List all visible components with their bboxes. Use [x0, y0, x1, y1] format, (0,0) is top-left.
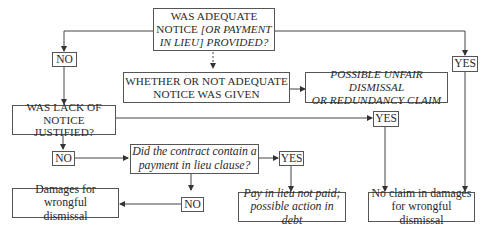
node-text: IN LIEU] PROVIDED? [160, 36, 269, 49]
node-text: payment in lieu clause? [139, 159, 251, 173]
label-yes-1: YES [452, 56, 478, 72]
label-no-2: NO [52, 151, 75, 166]
node-text: No claim in damages [372, 187, 472, 201]
node-pay-in-lieu-not-paid: Pay in lieu not paid; possible action in… [238, 192, 346, 222]
node-text: NOTICE JUSTIFIED? [13, 114, 115, 140]
label-yes-3: YES [279, 151, 304, 166]
node-unfair-dismissal: POSSIBLE UNFAIR DISMISSAL OR REDUNDANCY … [305, 72, 448, 103]
node-text: Did the contract contain a [132, 145, 257, 159]
node-no-claim-in-damages: No claim in damages for wrongful dismiss… [368, 192, 475, 222]
node-text: [OR PAYMENT [201, 23, 272, 35]
label-yes-2: YES [373, 111, 399, 127]
node-text: WAS LACK OF [26, 101, 101, 114]
node-text: dismissal [44, 210, 88, 224]
label-no-3: NO [181, 197, 204, 212]
node-text: Pay in lieu not paid; [244, 187, 341, 201]
node-lack-of-notice-question: WAS LACK OF NOTICE JUSTIFIED? [12, 105, 116, 135]
node-payment-in-lieu-question: Did the contract contain a payment in li… [130, 144, 259, 174]
node-text-line: NOTICE [OR PAYMENT [156, 23, 271, 36]
node-text: OR REDUNDANCY CLAIM [312, 94, 441, 107]
node-text: NOTICE [156, 23, 201, 35]
node-text: WAS ADEQUATE [171, 10, 258, 23]
node-text: possible action in debt [239, 200, 345, 227]
node-text: POSSIBLE UNFAIR DISMISSAL [306, 68, 447, 94]
label-no-1: NO [52, 52, 77, 67]
node-whether-or-not: WHETHER OR NOT ADEQUATE NOTICE WAS GIVEN [123, 72, 290, 103]
node-adequate-notice-question: WAS ADEQUATE NOTICE [OR PAYMENT IN LIEU]… [153, 8, 275, 51]
node-text: NOTICE WAS GIVEN [153, 88, 259, 101]
node-text: WHETHER OR NOT ADEQUATE [125, 75, 288, 88]
node-text: Damages for wrongful [13, 183, 118, 210]
node-damages-wrongful-dismissal: Damages for wrongful dismissal [12, 188, 119, 218]
node-text: for wrongful dismissal [369, 200, 474, 227]
